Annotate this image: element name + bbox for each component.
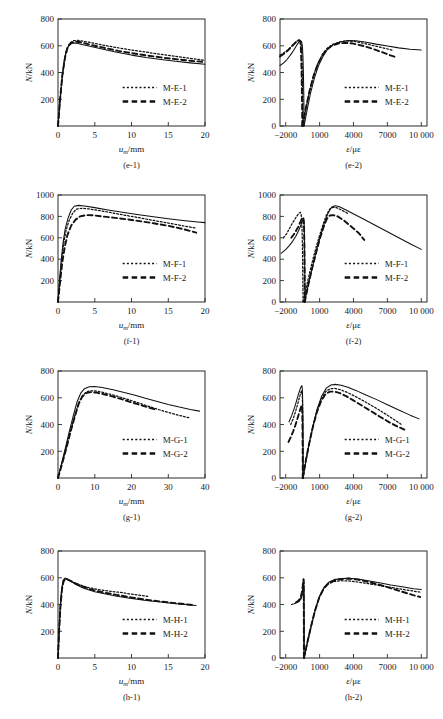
x-tick-label: 10 — [127, 130, 137, 140]
x-tick-label: 20 — [201, 306, 211, 316]
legend-label-series1: M-G-1 — [163, 435, 188, 445]
panel-caption: (h-1) — [123, 692, 140, 702]
x-tick-label: 4000 — [345, 306, 364, 316]
y-tick-label: 800 — [263, 14, 277, 24]
y-tick-label: 800 — [263, 212, 277, 222]
y-tick-label: 200 — [41, 627, 55, 637]
legend-label-series2: M-H-2 — [385, 629, 410, 639]
y-tick-label: 400 — [263, 254, 277, 264]
data-curve — [281, 219, 305, 300]
y-tick-label: 600 — [263, 41, 277, 51]
panel-caption: (e-2) — [345, 160, 362, 170]
x-tick-label: 4000 — [345, 662, 364, 672]
legend-label-series2: M-E-2 — [163, 97, 187, 107]
x-axis-title: um/mm — [119, 496, 145, 507]
y-tick-label: 400 — [41, 68, 55, 78]
panel-caption: (e-1) — [123, 160, 140, 170]
figure-container: 05101520200400600800N/kNum/mm(e-1)M-E-1M… — [0, 0, 443, 719]
x-tick-label: 1000 — [311, 482, 330, 492]
y-axis-title: N/kN — [246, 62, 256, 83]
x-axis-title: um/mm — [119, 320, 145, 331]
y-tick-label: 400 — [41, 420, 55, 430]
chart-svg-f-2: −200010004000700010 00002004006008001000… — [222, 176, 443, 354]
chart-panel-g-2: −200010004000700010 0000200400600800N/kN… — [222, 352, 443, 534]
y-tick-label: 400 — [263, 420, 277, 430]
x-tick-label: 10 000 — [409, 482, 434, 492]
y-tick-label: 800 — [41, 212, 55, 222]
chart-svg-f-1: 051015202004006008001000N/kNum/mm(f-1)M-… — [0, 176, 222, 354]
x-tick-label: 10 000 — [409, 130, 434, 140]
data-curve — [289, 386, 303, 478]
chart-svg-g-1: 010203040200400600800N/kNum/mm(g-1)M-G-1… — [0, 352, 222, 534]
x-tick-label: 15 — [164, 130, 174, 140]
chart-svg-e-2: −200010004000700010 0000200400600800N/kN… — [222, 0, 443, 178]
x-tick-label: 0 — [56, 662, 61, 672]
data-curve — [58, 392, 157, 478]
y-tick-label: 800 — [41, 546, 55, 556]
x-tick-label: 10 000 — [409, 662, 434, 672]
x-tick-label: 4000 — [345, 130, 364, 140]
chart-svg-h-2: −200010004000700010 0000200400600800N/kN… — [222, 532, 443, 718]
data-curve — [303, 41, 393, 126]
legend-label-series2: M-F-2 — [163, 273, 187, 283]
y-axis-title: N/kN — [24, 594, 34, 615]
x-tick-label: 4000 — [345, 482, 364, 492]
y-tick-label: 200 — [41, 95, 55, 105]
x-tick-label: 10 000 — [409, 306, 434, 316]
y-tick-label: 200 — [263, 627, 277, 637]
chart-panel-g-1: 010203040200400600800N/kNum/mm(g-1)M-G-1… — [0, 352, 222, 534]
y-axis-title: N/kN — [24, 62, 34, 83]
x-tick-label: 1000 — [311, 306, 330, 316]
y-tick-label: 400 — [41, 600, 55, 610]
x-tick-label: 0 — [56, 130, 61, 140]
y-tick-label: 200 — [263, 447, 277, 457]
y-axis-title: N/kN — [246, 238, 256, 259]
y-axis-title: N/kN — [246, 414, 256, 435]
x-tick-label: 0 — [56, 306, 61, 316]
y-tick-label: 800 — [41, 14, 55, 24]
x-tick-label: 1000 — [311, 130, 330, 140]
y-tick-label: 600 — [41, 41, 55, 51]
plot-frame — [58, 19, 205, 126]
x-tick-label: −2000 — [274, 662, 298, 672]
x-tick-label: −2000 — [274, 482, 298, 492]
x-axis-title: ε/με — [346, 320, 361, 330]
x-tick-label: 20 — [201, 662, 211, 672]
legend-label-series2: M-F-2 — [385, 273, 409, 283]
y-tick-label: 0 — [272, 473, 277, 483]
y-tick-label: 600 — [263, 573, 277, 583]
data-curve — [302, 43, 395, 126]
x-tick-label: 20 — [201, 130, 211, 140]
y-tick-label: 200 — [263, 95, 277, 105]
y-tick-label: 600 — [41, 233, 55, 243]
panel-caption: (g-2) — [345, 512, 362, 522]
y-tick-label: 800 — [263, 366, 277, 376]
chart-panel-h-2: −200010004000700010 0000200400600800N/kN… — [222, 532, 443, 718]
x-axis-title: um/mm — [119, 676, 145, 687]
panel-caption: (f-1) — [124, 336, 140, 346]
y-tick-label: 200 — [263, 276, 277, 286]
legend-label-series2: M-G-2 — [385, 449, 410, 459]
chart-panel-e-1: 05101520200400600800N/kNum/mm(e-1)M-E-1M… — [0, 0, 222, 178]
legend-label-series2: M-H-2 — [163, 629, 188, 639]
plot-frame — [58, 371, 205, 478]
x-tick-label: −2000 — [274, 306, 298, 316]
y-axis-title: N/kN — [24, 414, 34, 435]
x-tick-label: 30 — [164, 482, 174, 492]
x-tick-label: 7000 — [378, 130, 397, 140]
x-tick-label: 40 — [201, 482, 211, 492]
legend-label-series1: M-G-1 — [385, 435, 410, 445]
x-tick-label: 20 — [127, 482, 137, 492]
y-tick-label: 0 — [272, 653, 277, 663]
chart-svg-h-1: 05101520200400600800N/kNum/mm(h-1)M-H-1M… — [0, 532, 222, 718]
panel-caption: (h-2) — [345, 692, 362, 702]
legend-label-series2: M-E-2 — [385, 97, 409, 107]
y-tick-label: 800 — [263, 546, 277, 556]
y-tick-label: 600 — [263, 393, 277, 403]
x-tick-label: 7000 — [378, 306, 397, 316]
x-tick-label: 7000 — [378, 662, 397, 672]
chart-panel-f-2: −200010004000700010 00002004006008001000… — [222, 176, 443, 354]
plot-frame — [280, 551, 427, 658]
chart-panel-f-1: 051015202004006008001000N/kNum/mm(f-1)M-… — [0, 176, 222, 354]
chart-svg-e-1: 05101520200400600800N/kNum/mm(e-1)M-E-1M… — [0, 0, 222, 178]
